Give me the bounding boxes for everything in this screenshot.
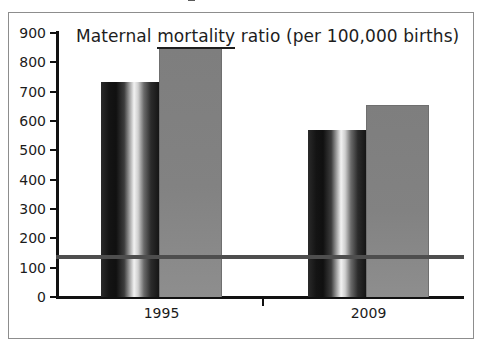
y-tick-mark — [50, 267, 58, 269]
y-tick-mark — [50, 237, 58, 239]
y-tick-mark — [50, 61, 58, 63]
chart-title-after: ratio (per 100,000 births) — [235, 26, 459, 46]
category-separator-tick — [262, 299, 264, 306]
y-tick-label: 900 — [2, 26, 46, 40]
y-tick-label: 0 — [2, 290, 46, 304]
y-tick-label: 100 — [2, 261, 46, 275]
y-tick-label: 300 — [2, 202, 46, 216]
bar-series2-2009 — [366, 105, 429, 297]
y-tick-label: 400 — [2, 173, 46, 187]
y-tick-mark — [50, 32, 58, 34]
target-reference-line — [56, 255, 464, 259]
chart-title-before: Maternal — [76, 26, 157, 46]
x-axis-label-1995: 1995 — [117, 305, 207, 321]
chart-title: Maternal mortality ratio (per 100,000 bi… — [76, 26, 459, 46]
chart-title-underlined: mortality — [157, 26, 235, 49]
chart-figure: 9008007006005004003002001000 Maternal mo… — [0, 0, 483, 351]
cropped-text-fragment — [188, 0, 195, 1]
y-tick-label: 200 — [2, 231, 46, 245]
y-tick-mark — [50, 91, 58, 93]
y-tick-mark — [50, 208, 58, 210]
y-tick-mark — [50, 179, 58, 181]
y-tick-label: 500 — [2, 143, 46, 157]
y-tick-mark — [50, 296, 58, 298]
bar-series2-1995 — [159, 48, 222, 297]
bar-series1-2009 — [308, 130, 366, 297]
y-tick-label: 700 — [2, 85, 46, 99]
x-axis-label-2009: 2009 — [324, 305, 414, 321]
bar-series1-1995 — [101, 82, 159, 297]
y-tick-mark — [50, 120, 58, 122]
y-tick-label: 800 — [2, 55, 46, 69]
y-tick-label: 600 — [2, 114, 46, 128]
y-tick-mark — [50, 149, 58, 151]
